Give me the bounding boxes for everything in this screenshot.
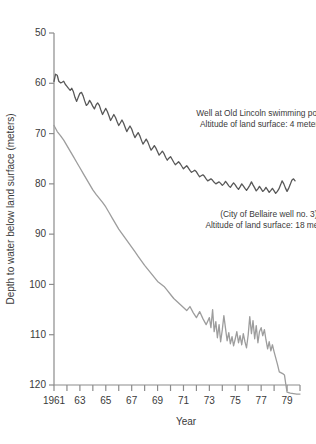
y-tick-label: 90 xyxy=(35,228,47,239)
bellaire-label: Altitude of land surface: 18 meters xyxy=(205,220,316,230)
y-tick-label: 60 xyxy=(35,77,47,88)
y-tick-label: 50 xyxy=(35,27,47,38)
y-tick-label: 70 xyxy=(35,128,47,139)
y-tick-label: 100 xyxy=(29,279,46,290)
y-axis-ticks xyxy=(49,33,54,385)
x-tick-label: 65 xyxy=(100,395,112,406)
y-tick-label: 110 xyxy=(30,329,46,340)
x-axis-ticks xyxy=(54,385,300,391)
y-axis-title: Depth to water below land surface (meter… xyxy=(5,113,16,304)
old-lincoln-label: Altitude of land surface: 4 meters xyxy=(200,119,316,129)
x-tick-label: 1961 xyxy=(43,395,66,406)
x-axis-title: Year xyxy=(176,416,197,427)
series-line xyxy=(54,74,295,193)
series-line xyxy=(54,126,300,395)
hydrograph-chart: 5060708090100110120 19616365676971737577… xyxy=(0,0,316,444)
y-tick-label: 80 xyxy=(35,178,47,189)
x-tick-label: 77 xyxy=(256,395,268,406)
y-tick-label: 120 xyxy=(29,379,46,390)
x-tick-label: 69 xyxy=(152,395,164,406)
chart-annotations: Well at Old Lincoln swimming pool.Altitu… xyxy=(196,108,316,230)
x-axis-tick-labels: 1961636567697173757779 xyxy=(43,395,293,406)
x-tick-label: 79 xyxy=(281,395,293,406)
x-tick-label: 67 xyxy=(126,395,138,406)
x-tick-label: 63 xyxy=(74,395,86,406)
x-tick-label: 73 xyxy=(204,395,216,406)
y-axis-tick-labels: 5060708090100110120 xyxy=(29,27,46,390)
bellaire-label: (City of Bellaire well no. 3) xyxy=(220,209,316,219)
x-tick-label: 71 xyxy=(178,395,190,406)
old-lincoln-label: Well at Old Lincoln swimming pool. xyxy=(196,108,316,118)
x-tick-label: 75 xyxy=(230,395,242,406)
